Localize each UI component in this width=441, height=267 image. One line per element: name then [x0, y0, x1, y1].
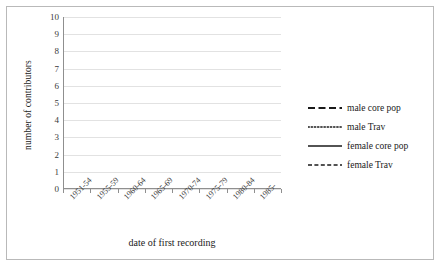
- y-axis-tick-label: 5: [55, 98, 60, 108]
- x-axis-tick: [281, 189, 282, 193]
- y-axis-title: number of contributors: [23, 30, 33, 180]
- y-axis-tick-label: 0: [55, 184, 60, 194]
- legend-swatch-male-trav: [308, 122, 342, 132]
- plot-area: 012345678910 1951-541955-591960-641965-6…: [63, 17, 281, 189]
- y-axis-tick-label: 7: [55, 64, 60, 74]
- legend-item: male core pop: [308, 98, 433, 117]
- gridline: [63, 137, 281, 138]
- y-axis-tick-label: 10: [50, 12, 59, 22]
- gridline: [63, 69, 281, 70]
- gridline: [63, 86, 281, 87]
- y-axis-tick-label: 1: [55, 167, 60, 177]
- x-axis-title: date of first recording: [63, 237, 281, 248]
- x-axis-tick: [118, 189, 119, 193]
- x-axis-tick: [172, 189, 173, 193]
- y-axis-tick-label: 8: [55, 46, 60, 56]
- chart-legend: male core pop male Trav female core pop …: [308, 98, 433, 174]
- legend-swatch-female-trav: [308, 160, 342, 170]
- legend-item: male Trav: [308, 117, 433, 136]
- x-axis-tick: [227, 189, 228, 193]
- legend-swatch-female-core-pop: [308, 141, 342, 151]
- y-axis-line: [63, 17, 64, 189]
- y-axis-tick-label: 4: [55, 115, 60, 125]
- y-axis-tick-label: 3: [55, 132, 60, 142]
- gridline: [63, 120, 281, 121]
- legend-item: female Trav: [308, 155, 433, 174]
- y-axis-tick-label: 2: [55, 150, 60, 160]
- gridline: [63, 103, 281, 104]
- x-axis-tick: [90, 189, 91, 193]
- chart-figure: number of contributors 012345678910 1951…: [0, 0, 441, 267]
- legend-label: male Trav: [347, 122, 385, 132]
- legend-item: female core pop: [308, 136, 433, 155]
- gridline: [63, 51, 281, 52]
- x-axis-tick: [145, 189, 146, 193]
- gridline: [63, 172, 281, 173]
- legend-label: female Trav: [347, 160, 393, 170]
- legend-label: male core pop: [347, 103, 401, 113]
- x-axis-tick: [254, 189, 255, 193]
- gridline: [63, 17, 281, 18]
- legend-swatch-male-core-pop: [308, 103, 342, 113]
- y-axis-tick-label: 9: [55, 29, 60, 39]
- y-axis-tick-label: 6: [55, 81, 60, 91]
- x-axis-tick: [199, 189, 200, 193]
- x-axis-tick: [63, 189, 64, 193]
- gridline: [63, 155, 281, 156]
- gridline: [63, 34, 281, 35]
- legend-label: female core pop: [347, 141, 408, 151]
